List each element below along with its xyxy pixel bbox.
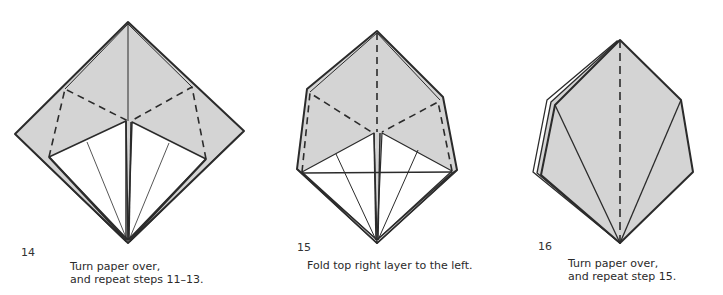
step-16-figure [533, 40, 693, 243]
step-15-caption-line1: Fold top right layer to the left. [307, 259, 473, 272]
step-15-number: 15 [297, 241, 311, 254]
step-14-caption-line1: Turn paper over, [70, 260, 160, 273]
step-16-caption-line2: and repeat step 15. [568, 270, 676, 283]
step-15-caption: Fold top right layer to the left. [307, 259, 473, 272]
origami-diagrams [0, 0, 723, 295]
step-14-caption: Turn paper over, and repeat steps 11–13. [70, 260, 204, 286]
step-15-figure [297, 31, 457, 243]
step-16-caption-line1: Turn paper over, [568, 257, 658, 270]
step-14-number: 14 [21, 246, 35, 259]
step-16-number: 16 [538, 240, 552, 253]
step-14-figure [15, 22, 244, 243]
step-14-caption-line2: and repeat steps 11–13. [70, 273, 204, 286]
step-16-caption: Turn paper over, and repeat step 15. [568, 257, 676, 283]
